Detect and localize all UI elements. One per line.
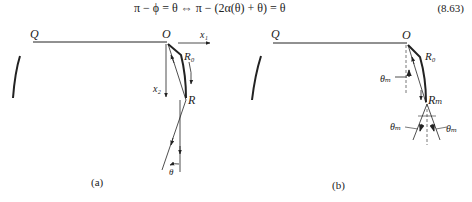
caption-a: (a): [91, 176, 104, 189]
label-x2: x₂: [152, 83, 161, 94]
ray-arrow-up-b: [412, 57, 414, 64]
label-q-b: Q: [271, 27, 280, 41]
label-r0-a: R₀: [183, 50, 195, 62]
ray-arrow-up: [171, 55, 174, 63]
theta-m-leader-left: [405, 127, 418, 129]
fan-right-ray: [427, 104, 440, 140]
label-theta-m-upper: θₘ: [380, 73, 391, 84]
mirror-arc-a: [13, 56, 20, 98]
label-rm: Rₘ: [427, 93, 443, 107]
theta-arc: [170, 164, 179, 165]
mirror-arc-b: [252, 56, 261, 100]
label-theta-m-left: θₘ: [390, 121, 401, 132]
figure-a: Q O x₁ x₂ R₀ R θ (a): [13, 27, 210, 189]
fan-left-ray: [413, 104, 427, 140]
fan-arrow-right: [432, 124, 434, 131]
label-theta-m-right: θₘ: [446, 123, 457, 134]
caption-b: (b): [332, 179, 345, 192]
label-r0-b: R₀: [424, 50, 436, 62]
r0-arrow: [189, 62, 191, 84]
label-o-a: O: [162, 27, 171, 41]
outgoing-ray-arrow: [171, 138, 173, 145]
label-r: R: [187, 93, 196, 107]
label-o-b: O: [402, 28, 411, 42]
figure-b: Q O R₀ θₘ Rₘ θₘ θₘ (b): [252, 27, 457, 192]
label-x1: x₁: [199, 29, 208, 40]
fan-arrow-left: [420, 124, 422, 131]
label-theta: θ: [169, 167, 174, 177]
figure-diagrams: Q O x₁ x₂ R₀ R θ (a) Q O R₀ θₘ: [0, 0, 472, 202]
label-q-a: Q: [30, 27, 39, 41]
outgoing-ray: [162, 100, 186, 170]
